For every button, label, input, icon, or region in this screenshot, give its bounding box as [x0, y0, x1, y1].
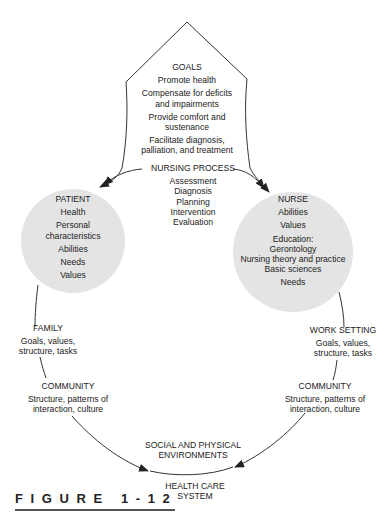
environments-line: SOCIAL AND PHYSICAL	[128, 440, 258, 450]
community-right-line: interaction, culture	[275, 404, 375, 414]
work-setting-title: WORK SETTING	[302, 325, 384, 335]
line-work-community	[333, 360, 337, 380]
goal-item: Provide comfort and	[126, 112, 248, 122]
goal-item: sustenance	[126, 122, 248, 132]
community-left-block: COMMUNITY Structure, patterns of interac…	[18, 381, 118, 415]
arrow-to-nurse	[250, 168, 269, 192]
nurse-item: Needs	[228, 277, 358, 287]
nursing-process-title: NURSING PROCESS	[136, 163, 250, 173]
nurse-education-title: Education:	[228, 234, 358, 244]
line-nurse-work	[339, 292, 344, 327]
line-family-community	[40, 357, 46, 378]
line-patient-family	[35, 285, 38, 327]
work-setting-line: Goals, values,	[302, 338, 384, 348]
family-line: structure, tasks	[8, 346, 88, 356]
community-left-line: Structure, patterns of	[18, 394, 118, 404]
goals-block: GOALS Promote health Compensate for defi…	[126, 62, 248, 156]
environments-line: ENVIRONMENTS	[128, 450, 258, 460]
family-line: Goals, values,	[8, 336, 88, 346]
nurse-title: NURSE	[228, 194, 358, 204]
patient-item: Needs	[23, 257, 123, 267]
arrow-to-patient	[100, 168, 122, 187]
arc-bottom	[150, 467, 233, 475]
patient-item: Values	[23, 270, 123, 280]
environments-block: SOCIAL AND PHYSICAL ENVIRONMENTS	[128, 440, 258, 460]
health-care-line: HEALTH CARE	[140, 481, 250, 491]
patient-block: PATIENT Health Personal characteristics …	[23, 194, 123, 280]
goals-title: GOALS	[126, 62, 248, 72]
patient-item: Abilities	[23, 244, 123, 254]
goal-item: and impairments	[126, 99, 248, 109]
figure-label: FIGURE 1-12	[15, 491, 177, 506]
nurse-education-item: Gerontology	[228, 244, 358, 254]
nurse-education-item: Nursing theory and practice	[228, 254, 358, 264]
goal-item: palliation, and treatment	[126, 145, 248, 155]
figure-underline	[15, 509, 175, 511]
nurse-item: Abilities	[228, 207, 358, 217]
community-right-line: Structure, patterns of	[275, 394, 375, 404]
patient-item: Health	[23, 207, 123, 217]
patient-item: characteristics	[23, 231, 123, 241]
goal-item: Compensate for deficits	[126, 88, 248, 98]
nurse-education-item: Basic sciences	[228, 264, 358, 274]
community-left-line: interaction, culture	[18, 404, 118, 414]
process-step: Assessment	[136, 176, 250, 186]
goal-item: Promote health	[126, 75, 248, 85]
nurse-item: Values	[228, 220, 358, 230]
family-title: FAMILY	[8, 323, 88, 333]
family-block: FAMILY Goals, values, structure, tasks	[8, 323, 88, 357]
community-right-title: COMMUNITY	[275, 381, 375, 391]
community-right-block: COMMUNITY Structure, patterns of interac…	[275, 381, 375, 415]
patient-item: Personal	[23, 220, 123, 230]
work-setting-line: structure, tasks	[302, 348, 384, 358]
patient-title: PATIENT	[23, 194, 123, 204]
community-left-title: COMMUNITY	[18, 381, 118, 391]
goal-item: Facilitate diagnosis,	[126, 135, 248, 145]
work-setting-block: WORK SETTING Goals, values, structure, t…	[302, 325, 384, 359]
nurse-block: NURSE Abilities Values Education: Geront…	[228, 194, 358, 288]
